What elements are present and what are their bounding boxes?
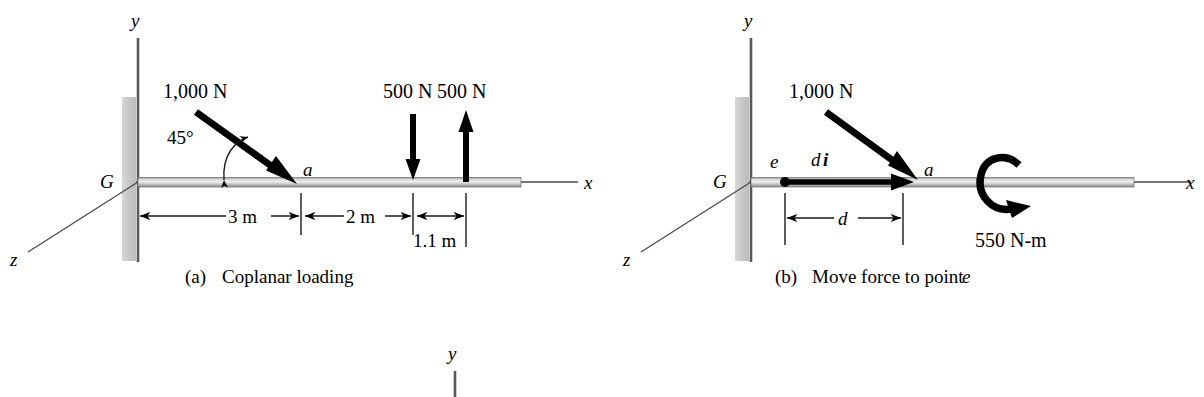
wall-support (122, 97, 136, 261)
wall-support (735, 97, 749, 261)
figure-canvas: y z G x 1,000 N 45° a 500 N (0, 0, 1204, 397)
angle-45-label: 45° (167, 127, 194, 148)
load-500n-down-label: 500 N (383, 80, 432, 102)
load-1000n-label: 1,000 N (163, 80, 227, 102)
dimension-3m: 3 m (140, 206, 299, 227)
load-1000n-arrow (826, 112, 918, 180)
point-a-label: a (303, 159, 313, 180)
point-a-label: a (924, 159, 934, 180)
load-1000n-label: 1,000 N (789, 80, 853, 102)
dimension-2m-label: 2 m (346, 206, 375, 227)
origin-label-G: G (713, 171, 727, 192)
couple-moment-label: 550 N-m (975, 229, 1047, 251)
point-e-label: e (770, 151, 778, 172)
y-axis-label: y (742, 10, 753, 31)
dimension-d: d (787, 208, 901, 229)
mechanics-figure: y z G x 1,000 N 45° a 500 N (0, 0, 1204, 397)
z-axis-line (28, 182, 138, 252)
vector-di (780, 174, 914, 191)
z-axis-line (641, 182, 751, 252)
z-axis-label: z (9, 249, 18, 270)
load-500n-up-label: 500 N (437, 80, 486, 102)
panel-a-caption-tag: (a) (185, 266, 206, 288)
vector-i-label: i (823, 149, 829, 170)
z-axis-label: z (622, 249, 631, 270)
dimension-d-label: d (838, 208, 848, 229)
panel-b-caption-text: Move force to point (812, 266, 964, 287)
panel-b-caption-tag: (b) (775, 266, 797, 288)
y-axis-label: y (446, 343, 457, 364)
panel-c-partial: y (446, 343, 457, 397)
panel-a: y z G x 1,000 N 45° a 500 N (9, 10, 593, 288)
panel-a-caption-text: Coplanar loading (222, 266, 354, 287)
dimension-1p1m: 1.1 m (413, 216, 464, 251)
load-500n-down-arrow (406, 114, 421, 180)
panel-b: y z G x e d i 1,000 N a (622, 10, 1195, 288)
x-axis-label: x (1185, 172, 1195, 193)
dimension-2m: 2 m (305, 206, 411, 227)
x-axis-label: x (583, 172, 593, 193)
origin-label-G: G (100, 171, 114, 192)
load-500n-up-arrow (459, 110, 474, 182)
dimension-1p1m-label: 1.1 m (413, 230, 457, 251)
dimension-3m-label: 3 m (228, 206, 257, 227)
vector-d-label: d (811, 149, 821, 170)
y-axis-label: y (129, 10, 140, 31)
load-1000n-arrow (196, 112, 297, 184)
couple-moment-arrow (980, 158, 1031, 218)
panel-b-caption-point: e (962, 266, 970, 287)
